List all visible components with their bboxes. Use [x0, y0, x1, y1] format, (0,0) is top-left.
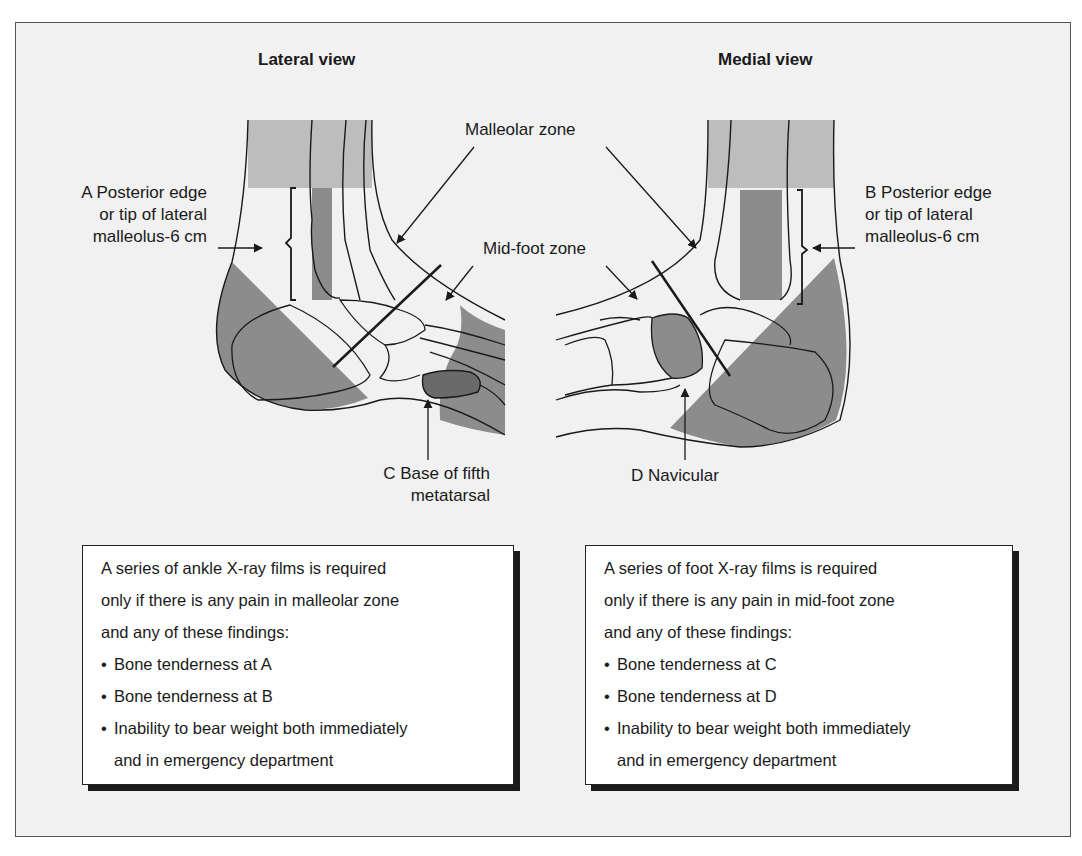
label-a: A Posterior edge or tip of lateral malle… [40, 182, 207, 248]
foot-bullet: Inability to bear weight both immediatel… [604, 712, 1002, 744]
label-d: D Navicular [631, 465, 719, 487]
medial-view-title: Medial view [718, 50, 812, 70]
ankle-intro-line-1: A series of ankle X-ray films is require… [101, 552, 503, 584]
lateral-view-title: Lateral view [258, 50, 355, 70]
foot-bullet-continuation: and in emergency department [604, 744, 1002, 776]
label-b: B Posterior edge or tip of lateral malle… [865, 182, 992, 248]
label-c: C Base of fifth metatarsal [340, 463, 490, 507]
ankle-bullet-continuation: and in emergency department [101, 744, 503, 776]
foot-intro-line-1: A series of foot X-ray films is required [604, 552, 1002, 584]
label-a-line-1: A Posterior edge [40, 182, 207, 204]
label-a-line-3: malleolus-6 cm [40, 226, 207, 248]
label-c-line-1: C Base of fifth [340, 463, 490, 485]
lateral-foot-illustration [216, 120, 505, 460]
foot-bullet: Bone tenderness at D [604, 680, 1002, 712]
ankle-bullet: Bone tenderness at B [101, 680, 503, 712]
foot-intro-line-2: only if there is any pain in mid-foot zo… [604, 584, 1002, 616]
ankle-intro-line-2: only if there is any pain in malleolar z… [101, 584, 503, 616]
label-b-line-3: malleolus-6 cm [865, 226, 992, 248]
foot-bullet: Bone tenderness at C [604, 648, 1002, 680]
midfoot-zone-label: Mid-foot zone [483, 238, 586, 260]
label-c-line-2: metatarsal [340, 485, 490, 507]
ankle-bullet: Bone tenderness at A [101, 648, 503, 680]
foot-intro-line-3: and any of these findings: [604, 616, 1002, 648]
label-b-line-2: or tip of lateral [865, 204, 992, 226]
ankle-xray-criteria-box: A series of ankle X-ray films is require… [82, 545, 514, 785]
foot-xray-criteria-box: A series of foot X-ray films is required… [585, 545, 1013, 785]
label-b-line-1: B Posterior edge [865, 182, 992, 204]
malleolar-zone-label: Malleolar zone [465, 119, 576, 141]
label-a-line-2: or tip of lateral [40, 204, 207, 226]
ankle-bullet: Inability to bear weight both immediatel… [101, 712, 503, 744]
medial-foot-illustration [556, 120, 855, 460]
ankle-intro-line-3: and any of these findings: [101, 616, 503, 648]
